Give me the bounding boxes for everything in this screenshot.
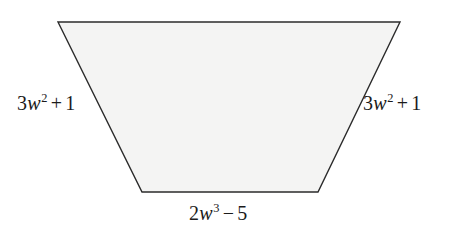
left-variable: w	[27, 92, 41, 114]
bottom-constant: 5	[237, 202, 247, 224]
bottom-variable: w	[199, 202, 213, 224]
figure-canvas: 3w2+1 3w2+1 2w3−5	[0, 0, 453, 233]
left-exponent: 2	[41, 91, 47, 105]
label-left-leg: 3w2+1	[17, 93, 75, 113]
left-operator: +	[51, 92, 62, 114]
bottom-coefficient: 2	[189, 202, 199, 224]
right-coefficient: 3	[363, 92, 373, 114]
left-constant: 1	[65, 92, 75, 114]
trapezoid-polygon	[58, 22, 400, 192]
bottom-operator: −	[223, 202, 234, 224]
right-exponent: 2	[387, 91, 393, 105]
right-variable: w	[373, 92, 387, 114]
bottom-exponent: 3	[213, 201, 219, 215]
left-coefficient: 3	[17, 92, 27, 114]
label-right-leg: 3w2+1	[363, 93, 421, 113]
label-bottom-base: 2w3−5	[189, 203, 247, 223]
right-operator: +	[397, 92, 408, 114]
right-constant: 1	[411, 92, 421, 114]
trapezoid-shape	[0, 0, 453, 233]
